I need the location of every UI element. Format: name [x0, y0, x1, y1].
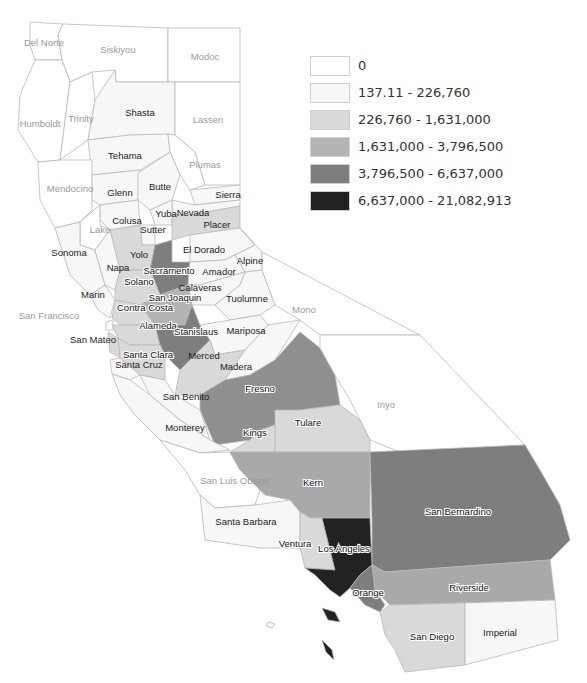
legend-label: 0	[358, 58, 366, 73]
legend-swatch	[310, 56, 350, 76]
label-riverside: Riverside	[449, 582, 489, 593]
label-inyo: Inyo	[377, 399, 395, 410]
label-placer: Placer	[204, 219, 231, 230]
label-plumas: Plumas	[189, 159, 221, 170]
label-amador: Amador	[202, 266, 235, 277]
label-san-francisco: San Francisco	[19, 310, 80, 321]
label-tulare: Tulare	[295, 417, 322, 428]
label-lake: Lake	[90, 224, 111, 235]
label-san-benito: San Benito	[163, 391, 209, 402]
label-san-bernardino: San Bernardino	[425, 506, 491, 517]
label-san-luis-obispo: San Luis Obispo	[200, 475, 270, 486]
label-modoc: Modoc	[191, 51, 220, 62]
legend-label: 137.11 - 226,760	[358, 85, 470, 100]
legend-item: 137.11 - 226,760	[310, 79, 512, 106]
label-tehama: Tehama	[108, 150, 143, 161]
legend-label: 3,796,500 - 6,637,000	[358, 166, 503, 181]
label-del-norte: Del Norte	[24, 37, 64, 48]
legend: 0 137.11 - 226,760 226,760 - 1,631,000 1…	[310, 52, 512, 214]
label-marin: Marin	[81, 289, 105, 300]
island	[266, 622, 275, 628]
label-kings: Kings	[243, 427, 267, 438]
label-stanislaus: Stanislaus	[174, 326, 218, 337]
label-lassen: Lassen	[193, 114, 224, 125]
legend-swatch	[310, 191, 350, 211]
label-monterey: Monterey	[165, 422, 205, 433]
label-trinity: Trinity	[68, 113, 94, 124]
legend-swatch	[310, 164, 350, 184]
label-kern: Kern	[303, 477, 323, 488]
label-fresno: Fresno	[245, 383, 275, 394]
label-santa-barbara: Santa Barbara	[215, 516, 277, 527]
legend-item: 0	[310, 52, 512, 79]
label-butte: Butte	[149, 181, 171, 192]
label-san-mateo: San Mateo	[70, 334, 116, 345]
label-yolo: Yolo	[130, 249, 148, 260]
legend-item: 226,760 - 1,631,000	[310, 106, 512, 133]
label-el-dorado: El Dorado	[183, 244, 225, 255]
legend-label: 1,631,000 - 3,796,500	[358, 139, 503, 154]
label-colusa: Colusa	[112, 215, 142, 226]
label-sacramento: Sacramento	[143, 265, 194, 276]
county-mendocino[interactable]	[38, 160, 92, 228]
label-santa-cruz: Santa Cruz	[115, 359, 163, 370]
legend-swatch	[310, 83, 350, 103]
label-sierra: Sierra	[215, 189, 241, 200]
legend-item: 1,631,000 - 3,796,500	[310, 133, 512, 160]
label-shasta: Shasta	[125, 107, 155, 118]
island	[322, 640, 334, 660]
label-mendocino: Mendocino	[47, 183, 93, 194]
label-solano: Solano	[124, 276, 154, 287]
label-mariposa: Mariposa	[226, 325, 266, 336]
label-nevada: Nevada	[177, 207, 210, 218]
legend-swatch	[310, 110, 350, 130]
label-alameda: Alameda	[139, 320, 177, 331]
legend-item: 6,637,000 - 21,082,913	[310, 187, 512, 214]
label-tuolumne: Tuolumne	[226, 293, 268, 304]
label-siskiyou: Siskiyou	[100, 44, 135, 55]
legend-item: 3,796,500 - 6,637,000	[310, 160, 512, 187]
label-alpine: Alpine	[237, 255, 263, 266]
label-glenn: Glenn	[107, 187, 132, 198]
label-napa: Napa	[107, 262, 130, 273]
label-humboldt: Humboldt	[20, 118, 61, 129]
label-imperial: Imperial	[483, 627, 517, 638]
label-ventura: Ventura	[279, 538, 312, 549]
label-sutter: Sutter	[140, 224, 165, 235]
label-los-angeles: Los Angeles	[318, 543, 370, 554]
legend-label: 226,760 - 1,631,000	[358, 112, 491, 127]
label-mono: Mono	[292, 304, 316, 315]
label-san-diego: San Diego	[410, 631, 454, 642]
label-madera: Madera	[220, 361, 253, 372]
label-merced: Merced	[188, 350, 220, 361]
label-sonoma: Sonoma	[51, 247, 87, 258]
legend-swatch	[310, 137, 350, 157]
label-contra-costa: Contra Costa	[117, 302, 174, 313]
label-orange: Orange	[352, 587, 384, 598]
legend-label: 6,637,000 - 21,082,913	[358, 193, 512, 208]
island	[322, 608, 340, 622]
label-yuba: Yuba	[155, 208, 177, 219]
